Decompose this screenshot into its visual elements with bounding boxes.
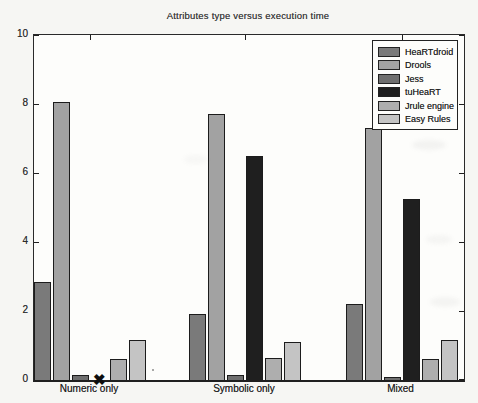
legend-swatch-icon [378, 47, 400, 57]
y-tick-label: 10 [2, 29, 28, 39]
bar-drools [365, 128, 382, 380]
legend-label: tuHeaRT [405, 87, 441, 97]
plot-area: ✖ HeaRTdroidDroolsJesstuHeaRTJrule engin… [33, 34, 465, 382]
legend-item: Easy Rules [378, 113, 452, 126]
legend-label: Jess [405, 74, 424, 84]
legend-swatch-icon [378, 87, 400, 97]
bar-easy-rules [284, 342, 301, 380]
legend-item: Drools [378, 59, 452, 72]
y-tick-mark [459, 311, 464, 312]
y-tick-label: 2 [2, 305, 28, 315]
x-category-label: Numeric only [60, 383, 118, 394]
y-tick-mark [34, 35, 39, 36]
bar-easy-rules [129, 340, 146, 380]
y-tick-mark [459, 35, 464, 36]
bar-jess [227, 375, 244, 380]
bar-group-mixed [346, 128, 458, 380]
x-category-label: Symbolic only [213, 383, 275, 394]
y-tick-label: 8 [2, 98, 28, 108]
legend-item: Jess [378, 72, 452, 85]
bar-jrule-engine [422, 359, 439, 380]
legend-label: Jrule engine [405, 101, 454, 111]
legend-swatch-icon [378, 101, 400, 111]
bar-group-symbolic-only [189, 114, 301, 380]
bar-chart-figure: Attributes type versus execution time 02… [0, 0, 478, 403]
legend-item: HeaRTdroid [378, 45, 452, 58]
bar-tuheart [403, 199, 420, 380]
x-tick-mark [90, 35, 91, 40]
bar-heartdroid [346, 304, 363, 380]
legend-item: tuHeaRT [378, 86, 452, 99]
legend-swatch-icon [378, 114, 400, 124]
bar-jrule-engine [265, 358, 282, 380]
y-tick-mark [459, 379, 464, 380]
bar-easy-rules [441, 340, 458, 380]
bar-jrule-engine [110, 359, 127, 380]
bar-jess [384, 377, 401, 380]
legend-swatch-icon [378, 74, 400, 84]
bar-tuheart [246, 156, 263, 380]
legend-item: Jrule engine [378, 99, 452, 112]
legend-label: HeaRTdroid [405, 47, 453, 57]
bar-drools [208, 114, 225, 380]
chart-title: Attributes type versus execution time [33, 10, 463, 21]
y-tick-label: 4 [2, 236, 28, 246]
legend-label: Drools [405, 60, 431, 70]
bar-heartdroid [34, 282, 51, 380]
legend-swatch-icon [378, 60, 400, 70]
y-tick-mark [459, 104, 464, 105]
bar-group-numeric-only [34, 102, 146, 380]
y-tick-mark [459, 173, 464, 174]
x-tick-mark [245, 35, 246, 40]
y-tick-mark [459, 242, 464, 243]
legend-label: Easy Rules [405, 114, 451, 124]
x-category-label: Mixed [387, 383, 414, 394]
y-tick-label: 0 [2, 374, 28, 384]
y-tick-label: 6 [2, 167, 28, 177]
bar-drools [53, 102, 70, 380]
bar-jess [72, 375, 89, 380]
bar-heartdroid [189, 314, 206, 380]
scan-speck [152, 369, 154, 371]
legend-box: HeaRTdroidDroolsJesstuHeaRTJrule engineE… [372, 40, 458, 130]
